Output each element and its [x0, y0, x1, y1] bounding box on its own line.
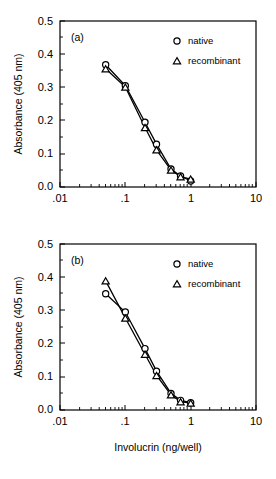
panel-label-a: (a): [71, 31, 84, 43]
chart-b-data-layer: [102, 278, 194, 406]
chart-b-xaxis-labels: .01 .1 1 10: [52, 415, 262, 427]
y-tick-label: 0.5: [38, 238, 53, 250]
y-tick-label: 0.2: [38, 114, 53, 126]
x-tick-label: 10: [250, 192, 262, 204]
chart-a-yaxis-labels: 0.5 0.4 0.3 0.2 0.1 0.0: [38, 15, 53, 192]
x-tick-label: 1: [188, 192, 194, 204]
series-line-recombinant: [106, 281, 191, 403]
y-tick-label: 0.3: [38, 81, 53, 93]
y-tick-label: 0.5: [38, 15, 53, 27]
legend-label-recombinant: recombinant: [188, 55, 241, 66]
x-tick-label: .1: [120, 192, 129, 204]
circle-marker: [103, 291, 109, 297]
y-tick-label: 0.0: [38, 403, 53, 415]
y-tick-label: 0.3: [38, 304, 53, 316]
chart-b-yaxis-labels: 0.5 0.4 0.3 0.2 0.1 0.0: [38, 238, 53, 415]
y-tick-label: 0.4: [38, 271, 53, 283]
y-tick-label: 0.2: [38, 337, 53, 349]
y-axis-title: Absorbance (405 nm): [12, 277, 24, 378]
y-tick-label: 0.1: [38, 370, 53, 382]
x-tick-label: 10: [250, 415, 262, 427]
chart-a-y-ticks: [60, 21, 65, 187]
chart-a-data-layer: [102, 62, 194, 184]
circle-marker: [174, 261, 180, 267]
chart-b-x-ticks: [60, 405, 256, 410]
triangle-marker: [173, 58, 180, 64]
x-axis-title: Involucrin (ng/well): [114, 441, 202, 453]
x-tick-label: .01: [52, 415, 67, 427]
chart-panel-b: 0.5 0.4 0.3 0.2 0.1 0.0 Absorbance (405 …: [0, 223, 276, 479]
figure-container: 0.5 0.4 0.3 0.2 0.1 0.0 Absorbance (405 …: [0, 0, 276, 479]
x-tick-label: 1: [188, 415, 194, 427]
y-tick-label: 0.4: [38, 48, 53, 60]
chart-a-xaxis-labels: .01 .1 1 10: [52, 192, 262, 204]
chart-a-svg: 0.5 0.4 0.3 0.2 0.1 0.0 Absorbance (405 …: [0, 0, 276, 230]
legend-label-native: native: [188, 258, 213, 269]
legend-label-native: native: [188, 35, 213, 46]
chart-b-legend: native recombinant: [173, 258, 240, 289]
chart-b-svg: 0.5 0.4 0.3 0.2 0.1 0.0 Absorbance (405 …: [0, 223, 276, 479]
chart-a-legend: native recombinant: [173, 35, 240, 66]
triangle-marker: [173, 281, 180, 287]
chart-a-x-ticks: [60, 182, 256, 187]
y-tick-label: 0.0: [38, 180, 53, 192]
plot-frame: [60, 21, 256, 187]
chart-b-y-ticks: [60, 244, 65, 410]
x-tick-label: .1: [120, 415, 129, 427]
x-tick-label: .01: [52, 192, 67, 204]
legend-label-recombinant: recombinant: [188, 278, 241, 289]
y-axis-title: Absorbance (405 nm): [12, 54, 24, 155]
chart-panel-a: 0.5 0.4 0.3 0.2 0.1 0.0 Absorbance (405 …: [0, 0, 276, 230]
circle-marker: [174, 38, 180, 44]
y-tick-label: 0.1: [38, 147, 53, 159]
triangle-marker: [102, 278, 109, 284]
plot-frame: [60, 244, 256, 410]
panel-label-b: (b): [71, 254, 84, 266]
